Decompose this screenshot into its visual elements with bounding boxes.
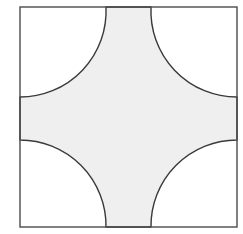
geometry-figure: Square with four corner quarter-circle a… <box>0 0 243 234</box>
